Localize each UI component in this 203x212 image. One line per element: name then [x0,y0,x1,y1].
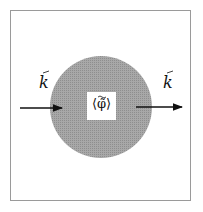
outgoing-wavevector-label: k [163,73,173,92]
incoming-wavevector-label: k [39,73,49,92]
center-field-label: ⟨φ̃⟩ [87,96,116,111]
